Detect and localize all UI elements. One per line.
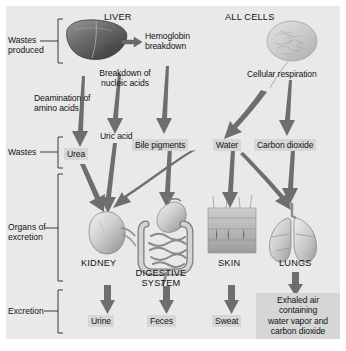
arrow-kidney-to-urine — [100, 285, 115, 314]
deamination-line1: Deamination of — [34, 93, 90, 103]
source-label-all-cells: ALL CELLS — [225, 12, 274, 22]
arrow-skin-to-sweat — [224, 285, 239, 314]
digestive-line1: DIGESTIVE — [128, 268, 194, 278]
organ-label-kidney: KIDNEY — [81, 258, 116, 268]
process-label-cellular-respiration: Cellular respiration — [247, 69, 317, 79]
exhaled-line2: containing — [258, 305, 338, 315]
organ-label-lungs: LUNGS — [279, 258, 312, 268]
excretion-label-feces: Feces — [147, 315, 176, 327]
arrow-urea-to-kidney — [80, 164, 105, 212]
row-label-organs-of-excretion: Organs of excretion — [8, 222, 46, 242]
bracket-excretion — [58, 290, 63, 333]
hemoglobin-line2: breakdown — [145, 41, 190, 51]
waste-label-urea: Urea — [64, 148, 88, 160]
organ-label-skin: SKIN — [218, 258, 240, 268]
liver-illustration — [67, 20, 127, 60]
exhaled-line4: carbon dioxide — [258, 326, 338, 336]
row-label-wastes: Wastes — [8, 147, 36, 157]
bracket-organs — [58, 174, 63, 281]
cell-illustration — [267, 21, 317, 61]
lungs-illustration — [269, 204, 316, 262]
row-label-organs-line1: Organs of — [8, 222, 46, 232]
arrow-respiration-to-water — [224, 90, 267, 139]
row-label-wastes-produced-line1: Wastes — [8, 35, 44, 45]
nucleic-line1: Breakdown of — [88, 68, 162, 78]
bracket-wastes-produced — [58, 19, 63, 63]
source-label-liver: LIVER — [104, 12, 132, 22]
digestive-line2: SYSTEM — [128, 278, 194, 288]
process-label-hemoglobin-breakdown: Hemoglobin breakdown — [145, 31, 190, 52]
hemoglobin-line1: Hemoglobin — [145, 31, 190, 41]
arrow-water-to-skin — [222, 150, 238, 208]
waste-label-bile-pigments: Bile pigments — [132, 139, 188, 151]
row-brackets — [40, 19, 63, 333]
nucleic-line2: nucleic acids — [88, 78, 162, 88]
row-label-wastes-produced-line2: produced — [8, 45, 44, 55]
arrow-digestive-to-feces — [159, 286, 174, 314]
diagram-root: Wastes produced Wastes Organs of excreti… — [0, 0, 346, 351]
bracket-wastes — [58, 137, 63, 168]
excretion-label-sweat: Sweat — [212, 315, 241, 327]
excretion-label-urine: Urine — [88, 315, 114, 327]
arrow-bile-curve-to-kidney — [113, 150, 196, 208]
deamination-line2: amino acids — [34, 103, 90, 113]
arrow-water-to-lungs — [240, 152, 291, 210]
process-label-deamination-amino-acids: Deamination of amino acids — [34, 93, 90, 114]
arrow-respiration-to-co2 — [279, 80, 295, 136]
waste-label-uric-acid: Uric acid — [100, 131, 133, 141]
row-label-wastes-produced: Wastes produced — [8, 35, 44, 55]
row-label-excretion-line1: Excretion — [8, 306, 44, 316]
waste-label-water: Water — [213, 139, 241, 151]
arrows-waste-to-organ — [80, 143, 298, 213]
process-label-breakdown-nucleic-acids: Breakdown of nucleic acids — [88, 68, 162, 89]
row-label-organs-line2: excretion — [8, 232, 46, 242]
exhaled-line1: Exhaled air — [258, 295, 338, 305]
kidney-illustration — [89, 212, 136, 254]
row-label-excretion: Excretion — [8, 306, 44, 316]
organ-label-digestive-system: DIGESTIVE SYSTEM — [128, 268, 194, 289]
row-label-wastes-line1: Wastes — [8, 147, 36, 157]
exhaled-line3: water vapor and — [258, 316, 338, 326]
waste-label-carbon-dioxide: Carbon dioxide — [254, 139, 316, 151]
excretion-label-exhaled-air: Exhaled air containing water vapor and c… — [256, 293, 340, 339]
